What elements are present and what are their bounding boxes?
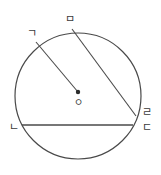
geometry-canvas <box>0 0 161 175</box>
vertex-label-d: ㄷ <box>142 122 152 133</box>
main-circle <box>15 33 141 159</box>
center-point-label: ㅇ <box>74 98 83 108</box>
circle-geometry-figure: ㅇ ㄱ ㅁ ㄹ ㄷ ㄴ <box>0 0 161 175</box>
center-dot-icon <box>76 90 80 94</box>
vertex-label-g: ㄱ <box>27 28 37 39</box>
vertex-label-n: ㄴ <box>9 122 19 133</box>
radius-g-to-center-line <box>36 42 78 92</box>
vertex-label-m: ㅁ <box>65 14 75 25</box>
vertex-label-r: ㄹ <box>142 107 152 118</box>
